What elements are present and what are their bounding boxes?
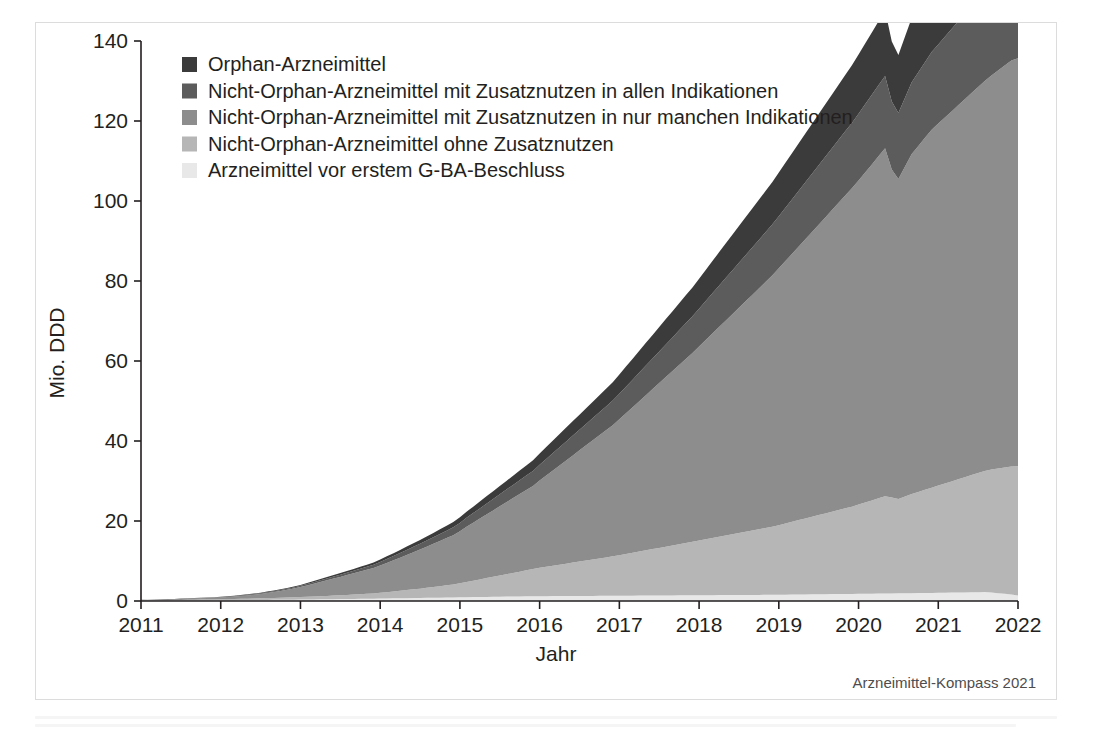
legend-swatch bbox=[182, 84, 197, 99]
legend-swatch bbox=[182, 137, 197, 152]
x-tick-label: 2015 bbox=[437, 613, 484, 636]
y-tick-label: 0 bbox=[116, 589, 128, 612]
legend-label: Orphan-Arzneimittel bbox=[208, 53, 386, 75]
figure-frame: 020406080100120140 201120122013201420152… bbox=[35, 22, 1057, 700]
y-axis-title: Mio. DDD bbox=[45, 307, 68, 398]
chart-legend: Orphan-ArzneimittelNicht-Orphan-Arzneimi… bbox=[182, 53, 853, 181]
legend-label: Nicht-Orphan-Arzneimittel mit Zusatznutz… bbox=[208, 106, 853, 128]
legend-swatch bbox=[182, 57, 197, 72]
x-tick-labels: 2011201220132014201520162017201820192020… bbox=[118, 613, 1041, 636]
x-tick-label: 2012 bbox=[197, 613, 244, 636]
y-tick-label: 60 bbox=[105, 349, 128, 372]
x-tick-label: 2018 bbox=[676, 613, 723, 636]
legend-label: Nicht-Orphan-Arzneimittel ohne Zusatznut… bbox=[208, 133, 614, 155]
x-tick-label: 2020 bbox=[835, 613, 882, 636]
x-axis-title: Jahr bbox=[536, 642, 577, 665]
source-note: Arzneimittel-Kompass 2021 bbox=[853, 674, 1036, 691]
x-tick-label: 2019 bbox=[755, 613, 802, 636]
caption-placeholder bbox=[35, 716, 1057, 732]
legend-swatch bbox=[182, 163, 197, 178]
legend-label: Arzneimittel vor erstem G-BA-Beschluss bbox=[208, 159, 565, 181]
legend-swatch bbox=[182, 110, 197, 125]
y-tick-labels: 020406080100120140 bbox=[93, 29, 128, 612]
y-tick-label: 120 bbox=[93, 109, 128, 132]
chart-area: 020406080100120140 201120122013201420152… bbox=[36, 23, 1058, 701]
x-tick-label: 2013 bbox=[277, 613, 324, 636]
x-tick-label: 2014 bbox=[357, 613, 404, 636]
y-tick-label: 20 bbox=[105, 509, 128, 532]
x-tick-label: 2022 bbox=[995, 613, 1042, 636]
x-tick-label: 2016 bbox=[516, 613, 563, 636]
y-tick-label: 140 bbox=[93, 29, 128, 52]
x-tick-label: 2021 bbox=[915, 613, 962, 636]
y-tick-label: 80 bbox=[105, 269, 128, 292]
legend-label: Nicht-Orphan-Arzneimittel mit Zusatznutz… bbox=[208, 80, 778, 102]
stacked-area-chart: 020406080100120140 201120122013201420152… bbox=[36, 23, 1058, 701]
y-tick-label: 40 bbox=[105, 429, 128, 452]
y-tick-label: 100 bbox=[93, 189, 128, 212]
x-tick-label: 2011 bbox=[118, 613, 163, 636]
x-tick-label: 2017 bbox=[596, 613, 643, 636]
